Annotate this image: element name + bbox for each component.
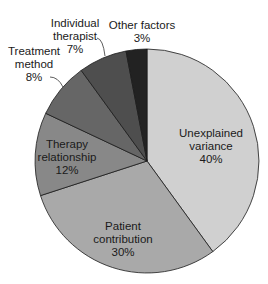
label-line: variance <box>189 140 232 152</box>
pie-chart: Unexplained variance 40% Patient contrib… <box>0 0 268 284</box>
label-percent: 7% <box>67 43 84 55</box>
label-line: relationship <box>38 151 97 163</box>
label-line: Therapy <box>46 138 88 150</box>
leader-line-treatment-method <box>50 77 63 87</box>
label-percent: 12% <box>55 164 78 176</box>
label-percent: 30% <box>111 246 134 258</box>
label-line: Unexplained <box>179 127 243 139</box>
label-line: method <box>15 58 53 70</box>
label-line: therapist <box>53 30 98 42</box>
leader-line-individual-therapist <box>97 38 105 56</box>
label-other-factors: Other factors 3% <box>109 19 176 44</box>
label-line: Treatment <box>8 45 61 57</box>
label-percent: 8% <box>26 71 43 83</box>
label-percent: 3% <box>134 32 151 44</box>
label-line: contribution <box>93 233 152 245</box>
label-line: Individual <box>51 17 100 29</box>
label-line: Patient <box>105 220 142 232</box>
label-percent: 40% <box>199 153 222 165</box>
label-line: Other factors <box>109 19 176 31</box>
